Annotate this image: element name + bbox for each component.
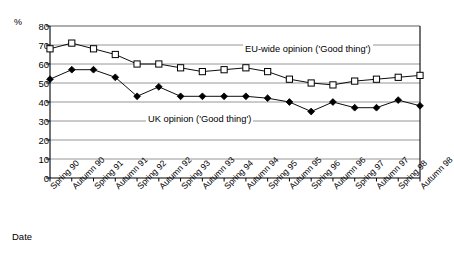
datapoint-marker <box>286 76 292 82</box>
datapoint-marker <box>134 61 140 67</box>
x-axis-title: Date <box>12 231 32 242</box>
datapoint-marker <box>199 69 205 75</box>
datapoint-marker <box>395 74 401 80</box>
datapoint-marker <box>330 82 336 88</box>
datapoint-marker <box>68 66 75 73</box>
datapoint-marker <box>373 104 380 111</box>
datapoint-marker <box>90 46 96 52</box>
datapoint-marker <box>351 104 358 111</box>
datapoint-marker <box>243 93 250 100</box>
datapoint-marker <box>330 99 337 106</box>
datapoint-marker <box>308 108 315 115</box>
datapoint-marker <box>264 95 271 102</box>
series-label-eu: EU-wide opinion ('Good thing') <box>243 44 373 54</box>
datapoint-marker <box>221 93 228 100</box>
datapoint-marker <box>155 83 162 90</box>
datapoint-marker <box>112 51 118 57</box>
datapoint-marker <box>177 65 183 71</box>
datapoint-marker <box>265 69 271 75</box>
datapoint-marker <box>199 93 206 100</box>
datapoint-marker <box>243 65 249 71</box>
datapoint-marker <box>47 46 53 52</box>
datapoint-marker <box>156 61 162 67</box>
datapoint-marker <box>417 102 424 109</box>
datapoint-marker <box>352 78 358 84</box>
datapoint-marker <box>177 93 184 100</box>
datapoint-marker <box>221 67 227 73</box>
datapoint-marker <box>308 80 314 86</box>
datapoint-marker <box>373 76 379 82</box>
datapoint-marker <box>417 72 423 78</box>
datapoint-marker <box>90 66 97 73</box>
datapoint-marker <box>47 76 54 83</box>
datapoint-marker <box>69 40 75 46</box>
datapoint-marker <box>286 99 293 106</box>
series-label-uk: UK opinion ('Good thing') <box>146 114 253 124</box>
datapoint-marker <box>395 97 402 104</box>
series-line-1 <box>50 70 420 112</box>
